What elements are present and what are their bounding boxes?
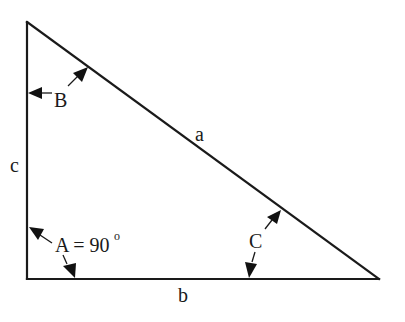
arrow-head-icon bbox=[63, 263, 76, 278]
arrow-head-icon bbox=[245, 262, 257, 278]
angle-c-label: C bbox=[249, 230, 262, 252]
side-b-label: b bbox=[178, 284, 188, 306]
right-triangle-diagram: B a c b A = 90 o C bbox=[0, 0, 405, 322]
arrow-head-icon bbox=[29, 227, 44, 240]
arrow-head-icon bbox=[28, 87, 42, 99]
side-c-label: c bbox=[10, 154, 19, 176]
arrow-head-icon bbox=[267, 210, 281, 224]
angle-b-label: B bbox=[54, 89, 67, 111]
side-a-label: a bbox=[195, 123, 204, 145]
angle-a-label: A = 90 bbox=[55, 234, 110, 256]
arrow-head-icon bbox=[73, 67, 88, 82]
angle-a-degree-superscript: o bbox=[114, 229, 120, 243]
